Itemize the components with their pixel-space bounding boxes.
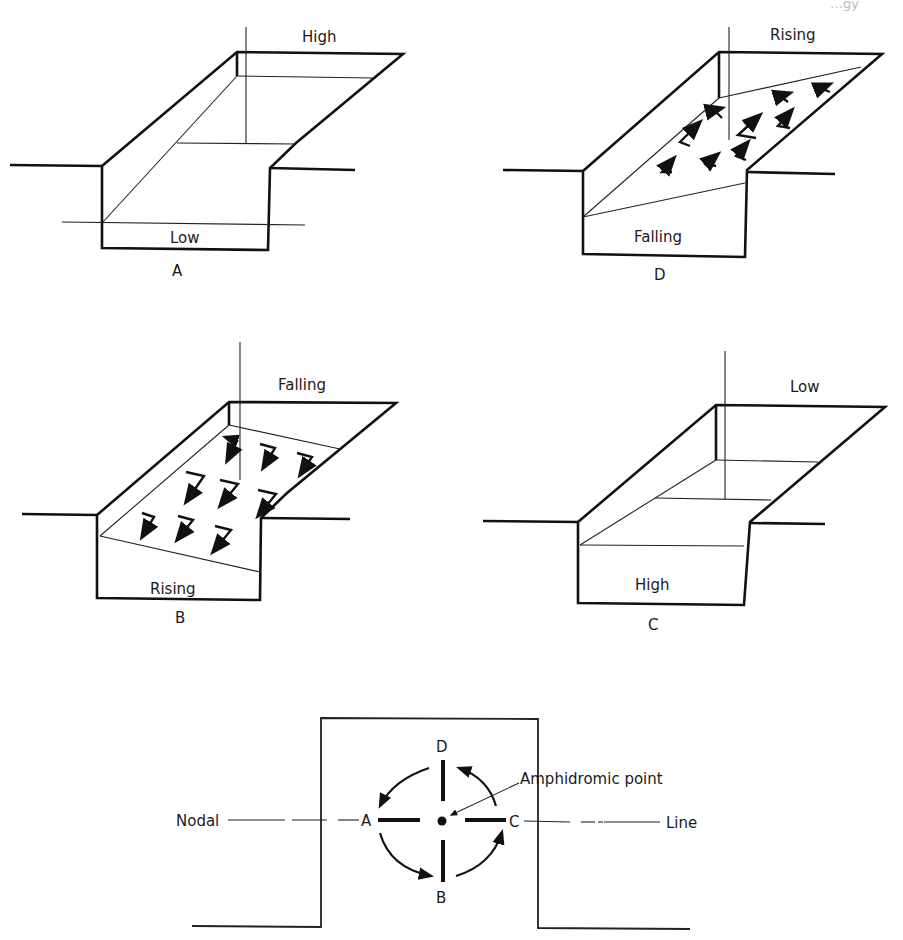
panel-d: Rising Falling D	[503, 26, 882, 284]
panel-b-caption: B	[175, 609, 185, 627]
amphidromic-point-dot	[438, 817, 447, 826]
point-a-label: A	[361, 812, 372, 830]
nodal-label: Nodal	[176, 812, 219, 830]
panel-c-near-label: High	[635, 576, 669, 594]
tide-basin-figure: …gy High Low A	[0, 0, 903, 940]
rotation-arrow-a-to-b	[380, 833, 431, 876]
panel-a-caption: A	[172, 262, 183, 280]
line-label: Line	[666, 814, 697, 832]
panel-c-caption: C	[648, 616, 658, 634]
panel-d-near-label: Falling	[634, 228, 682, 246]
panel-d-far-label: Rising	[770, 26, 816, 44]
point-b-label: B	[436, 889, 446, 907]
panel-c: Low High C	[483, 351, 885, 634]
amphidromic-pointer-arrow	[451, 783, 519, 815]
panel-b-near-label: Rising	[150, 580, 196, 598]
panel-b-far-label: Falling	[278, 376, 326, 394]
panel-d-flow-arrows	[662, 84, 830, 172]
panel-a-near-label: Low	[170, 229, 200, 247]
panel-d-caption: D	[654, 266, 666, 284]
panel-a-far-label: High	[302, 28, 336, 46]
point-c-label: C	[509, 813, 519, 831]
rotation-arrow-c-to-d	[459, 768, 496, 806]
point-d-label: D	[436, 738, 448, 756]
page-header-fragment: …gy	[830, 0, 859, 11]
rotation-arrow-b-to-c	[456, 832, 502, 876]
panel-a: High Low A	[10, 27, 403, 280]
panel-c-far-label: Low	[790, 378, 820, 396]
amphidromic-diagram: D A C B Nodal Line Amphidromic point	[176, 718, 697, 929]
amphidromic-point-label: Amphidromic point	[520, 770, 663, 788]
panel-b: Falling Rising B	[22, 342, 396, 627]
rotation-arrow-d-to-a	[380, 768, 429, 806]
